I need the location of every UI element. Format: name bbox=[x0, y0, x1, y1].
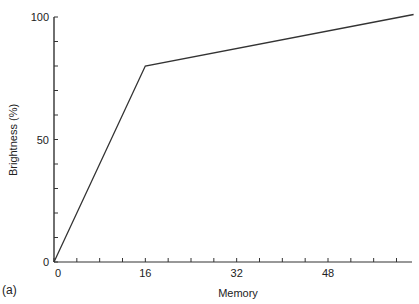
x-ticks: 0163248 bbox=[54, 258, 397, 279]
y-tick-label: 100 bbox=[31, 11, 49, 23]
x-axis-label: Memory bbox=[218, 287, 258, 299]
x-tick-label: 16 bbox=[139, 267, 151, 279]
brightness-line bbox=[54, 15, 414, 263]
x-tick-label: 48 bbox=[322, 267, 334, 279]
y-tick-label: 50 bbox=[37, 134, 49, 146]
chart: 050100 0163248 Memory Brightness (%) (a) bbox=[0, 0, 419, 304]
y-tick-label: 0 bbox=[43, 256, 49, 268]
panel-label: (a) bbox=[2, 283, 17, 297]
x-tick-label: 32 bbox=[231, 267, 243, 279]
x-tick-label: 0 bbox=[55, 267, 61, 279]
y-axis-label: Brightness (%) bbox=[7, 104, 19, 176]
